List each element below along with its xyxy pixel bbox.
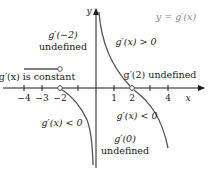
annotation-negative-right: g′(x) < 0 (116, 110, 157, 121)
annotation-g-neg2: g′(−2) (48, 29, 78, 40)
annotation-negative-left: g′(x) < 0 (41, 117, 82, 128)
tick-label-2: 2 (129, 93, 135, 103)
x-axis-label: x (185, 93, 190, 103)
tick-label-1: 1 (111, 93, 117, 103)
open-point-2 (130, 86, 135, 91)
open-point-neg2 (58, 86, 63, 91)
y-axis-label: y (85, 6, 92, 16)
tick-label-neg2: −2 (53, 93, 66, 103)
graph-title: y = g′(x) (155, 11, 197, 22)
annotation-positive: g′(x) > 0 (115, 36, 156, 47)
annotation-g0-undefined: undefined (101, 145, 149, 156)
annotation-g-neg2-undefined: undefined (39, 41, 87, 52)
derivative-graph: −4 −3 −2 1 2 4 x y y = g′(x) g′(−2) unde… (0, 0, 210, 170)
tick-label-neg3: −3 (35, 93, 49, 103)
annotation-g0: g′(0) (114, 133, 136, 144)
annotation-constant: g′(x) is constant (0, 71, 75, 82)
tick-label-neg4: −4 (17, 93, 31, 103)
right-branch-curve (99, 12, 168, 148)
tick-label-4: 4 (165, 93, 171, 103)
annotation-g2-undefined: g′(2) undefined (124, 69, 197, 80)
